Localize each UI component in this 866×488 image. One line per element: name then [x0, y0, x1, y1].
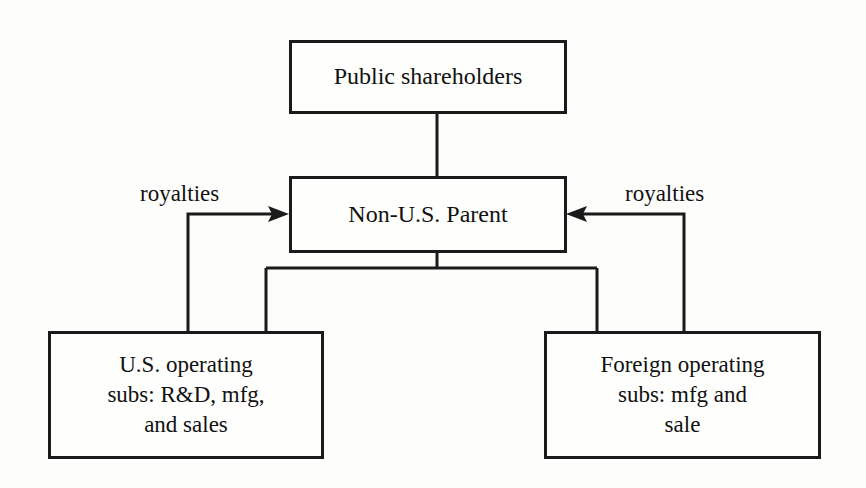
- node-foreign-operating-subs: Foreign operating subs: mfg and sale: [544, 331, 821, 459]
- node-us-operating-subs: U.S. operating subs: R&D, mfg, and sales: [48, 331, 324, 459]
- node-us-operating-subs-label: U.S. operating subs: R&D, mfg, and sales: [101, 350, 270, 440]
- edge-us-royalties-line: [188, 214, 277, 331]
- node-non-us-parent-label: Non-U.S. Parent: [342, 199, 513, 230]
- edge-label-royalties-right: royalties: [625, 181, 704, 207]
- node-public-shareholders-label: Public shareholders: [328, 61, 529, 92]
- node-foreign-operating-subs-label: Foreign operating subs: mfg and sale: [594, 350, 770, 440]
- diagram-canvas: Public shareholders Non-U.S. Parent U.S.…: [0, 0, 866, 488]
- arrowhead-foreign-royalties: [566, 206, 587, 222]
- node-public-shareholders: Public shareholders: [289, 40, 567, 114]
- edge-foreign-royalties-line: [578, 214, 684, 331]
- arrowhead-us-royalties: [268, 206, 289, 222]
- edge-parent-to-subsidiaries-bus: [266, 268, 597, 331]
- node-non-us-parent: Non-U.S. Parent: [289, 176, 567, 253]
- edge-label-royalties-left: royalties: [140, 181, 219, 207]
